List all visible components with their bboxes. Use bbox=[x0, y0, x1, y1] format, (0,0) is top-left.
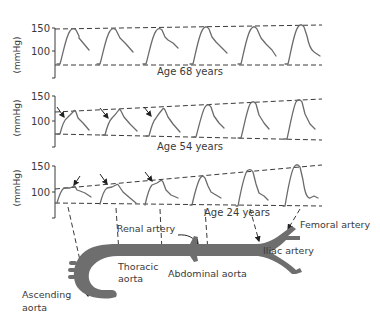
arch-branch bbox=[68, 268, 76, 272]
aorta-shape bbox=[74, 226, 302, 299]
arrow-icon bbox=[144, 107, 151, 116]
label-ascending-aorta-1: Ascending bbox=[22, 289, 71, 300]
y-axis-label: (mmHg) bbox=[12, 36, 22, 73]
age-label-68: Age 68 years bbox=[157, 66, 223, 77]
arrow-icon bbox=[100, 174, 107, 184]
label-thoracic-aorta-2: aorta bbox=[118, 273, 143, 284]
y-axis-label: (mmHg) bbox=[12, 169, 22, 206]
label-renal-artery: Renal artery bbox=[117, 223, 176, 234]
label-iliac-artery: Iliac artery bbox=[263, 245, 314, 256]
arch-branch bbox=[68, 275, 76, 279]
y-tick-150: 150 bbox=[31, 23, 50, 34]
y-tick-150: 150 bbox=[31, 161, 50, 172]
lower-envelope bbox=[55, 203, 322, 206]
y-tick-100: 100 bbox=[31, 46, 50, 57]
age-label-54: Age 54 years bbox=[157, 141, 223, 152]
arch-branch bbox=[69, 261, 77, 265]
y-tick-100: 100 bbox=[31, 187, 50, 198]
y-axis bbox=[52, 96, 55, 147]
panel-age-54: (mmHg) 150 100 Age 54 years bbox=[12, 91, 322, 152]
arrow-icon bbox=[74, 176, 80, 185]
label-abdominal-aorta: Abdominal aorta bbox=[168, 268, 247, 279]
pressure-waves bbox=[57, 25, 320, 64]
renal-artery-branch-down bbox=[190, 256, 198, 262]
label-ascending-aorta-2: aorta bbox=[22, 302, 47, 313]
connector-femoral bbox=[288, 209, 300, 229]
reflection-arrows bbox=[74, 172, 152, 185]
aorta-illustration bbox=[68, 226, 302, 299]
age-label-24: Age 24 years bbox=[204, 207, 270, 218]
y-axis-label: (mmHg) bbox=[12, 99, 22, 136]
y-tick-150: 150 bbox=[31, 91, 50, 102]
label-thoracic-aorta-1: Thoracic bbox=[117, 261, 158, 272]
arrow-icon bbox=[145, 172, 152, 181]
label-femoral-artery: Femoral artery bbox=[300, 219, 370, 230]
upper-envelope bbox=[55, 25, 322, 29]
upper-envelope bbox=[55, 99, 322, 112]
y-axis bbox=[52, 166, 55, 218]
y-axis bbox=[52, 28, 55, 78]
lower-envelope bbox=[55, 134, 322, 140]
reflection-arrows bbox=[57, 107, 151, 118]
panel-age-68: (mmHg) 150 100 Age 68 years bbox=[12, 23, 322, 78]
y-tick-100: 100 bbox=[31, 116, 50, 127]
aortic-pulse-wave-figure: (mmHg) 150 100 Age 68 years (mmHg) 150 1… bbox=[0, 0, 380, 326]
panel-age-24: (mmHg) 150 100 Age 24 years bbox=[12, 161, 322, 218]
upper-envelope bbox=[55, 165, 322, 189]
